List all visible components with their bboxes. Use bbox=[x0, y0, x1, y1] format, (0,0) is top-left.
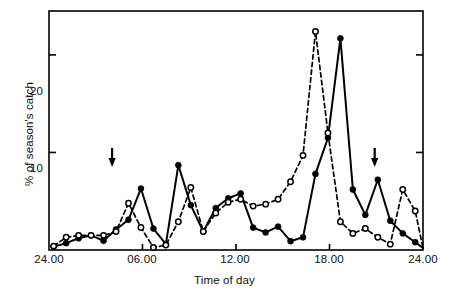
y-axis-title: % of season's catch bbox=[23, 49, 35, 219]
marker-filled-17 bbox=[263, 230, 269, 236]
marker-open-19 bbox=[288, 179, 293, 184]
marker-filled-7 bbox=[138, 186, 144, 192]
marker-open-24 bbox=[350, 231, 355, 236]
data-series-group bbox=[51, 29, 423, 250]
marker-open-2 bbox=[76, 233, 81, 238]
marker-open-8 bbox=[151, 245, 156, 250]
marker-open-23 bbox=[338, 219, 343, 224]
y-tick-label-20: 20 bbox=[17, 85, 43, 97]
marker-open-20 bbox=[300, 153, 305, 158]
marker-filled-15 bbox=[238, 191, 244, 197]
x-axis-title: Time of day bbox=[0, 274, 449, 286]
marker-filled-19 bbox=[288, 238, 294, 244]
x-tick-label-2: 12.00 bbox=[205, 253, 265, 265]
marker-open-11 bbox=[188, 185, 193, 190]
marker-open-22 bbox=[325, 130, 330, 135]
series-filled-circles bbox=[51, 35, 423, 249]
marker-filled-11 bbox=[188, 202, 194, 208]
marker-open-4 bbox=[101, 233, 106, 238]
marker-open-14 bbox=[226, 200, 231, 205]
marker-filled-28 bbox=[400, 231, 406, 237]
marker-open-16 bbox=[250, 203, 255, 208]
marker-open-15 bbox=[238, 197, 243, 202]
marker-open-26 bbox=[375, 235, 380, 240]
sunrise-arrow-head bbox=[109, 158, 116, 167]
x-tick-label-0: 24.00 bbox=[19, 253, 79, 265]
y-tick-label-10: 10 bbox=[17, 162, 43, 174]
marker-open-21 bbox=[313, 29, 318, 34]
marker-filled-8 bbox=[151, 226, 157, 232]
marker-filled-20 bbox=[300, 234, 306, 240]
marker-filled-10 bbox=[175, 162, 181, 168]
marker-filled-21 bbox=[313, 171, 319, 177]
marker-open-12 bbox=[201, 229, 206, 234]
marker-open-29 bbox=[413, 208, 418, 213]
axis-ticks bbox=[49, 55, 423, 250]
annotation-arrows bbox=[109, 148, 379, 167]
marker-filled-18 bbox=[275, 224, 281, 230]
marker-filled-26 bbox=[375, 177, 381, 183]
marker-open-13 bbox=[213, 210, 218, 215]
sunrise-arrow bbox=[109, 148, 116, 167]
figure-chart: % of season's catch Time of day 24.00 06… bbox=[0, 0, 449, 297]
marker-filled-25 bbox=[362, 212, 368, 218]
marker-open-18 bbox=[275, 197, 280, 202]
marker-filled-23 bbox=[338, 35, 344, 41]
x-tick-label-3: 18.00 bbox=[299, 253, 359, 265]
marker-filled-24 bbox=[350, 187, 356, 193]
marker-filled-29 bbox=[412, 239, 418, 245]
sunset-arrow-head bbox=[371, 158, 378, 167]
x-tick-label-1: 06.00 bbox=[112, 253, 172, 265]
marker-filled-6 bbox=[126, 217, 132, 223]
marker-open-10 bbox=[176, 219, 181, 224]
marker-open-1 bbox=[63, 235, 68, 240]
marker-open-9 bbox=[163, 242, 168, 247]
marker-open-5 bbox=[113, 229, 118, 234]
marker-open-17 bbox=[263, 201, 268, 206]
marker-open-7 bbox=[138, 225, 143, 230]
marker-filled-16 bbox=[250, 225, 256, 231]
marker-open-6 bbox=[126, 200, 131, 205]
marker-open-28 bbox=[400, 187, 405, 192]
marker-open-27 bbox=[388, 241, 393, 246]
marker-filled-27 bbox=[387, 218, 393, 224]
marker-filled-1 bbox=[63, 240, 69, 246]
x-tick-label-4: 24.00 bbox=[393, 253, 449, 265]
marker-open-25 bbox=[363, 226, 368, 231]
marker-open-3 bbox=[88, 233, 93, 238]
marker-open-0 bbox=[51, 243, 56, 248]
sunset-arrow bbox=[371, 148, 378, 167]
